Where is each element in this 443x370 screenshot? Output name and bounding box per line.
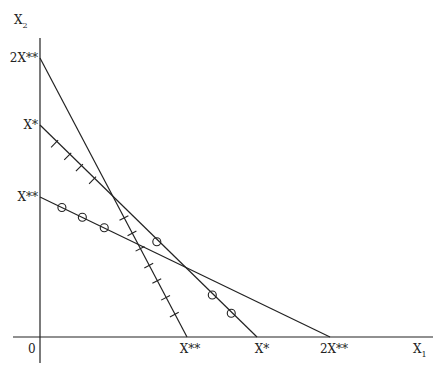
markers-group bbox=[51, 140, 235, 317]
y-tick-label-xs: X* bbox=[23, 118, 38, 132]
y-tick-label-2xss: 2X** bbox=[10, 51, 38, 65]
circle-marker-xs-line bbox=[227, 309, 235, 317]
line-xss-to-2xss bbox=[40, 197, 330, 337]
y-axis-label: X2 bbox=[14, 13, 28, 30]
circle-marker-xs-line bbox=[208, 291, 216, 299]
x-tick-label-xs: X* bbox=[255, 342, 270, 356]
tick-mark-xs-line bbox=[51, 140, 58, 147]
origin-label: 0 bbox=[28, 342, 36, 356]
x-axis-label: X1 bbox=[413, 342, 427, 359]
x-tick-label-2xss: 2X** bbox=[320, 342, 348, 356]
tick-mark-xs-line bbox=[76, 164, 83, 171]
tick-mark-xs-line bbox=[64, 153, 71, 160]
tick-mark-xs-line bbox=[89, 177, 96, 184]
line-xs-to-xs bbox=[40, 125, 257, 337]
y-tick-label-xss: X** bbox=[17, 190, 38, 204]
constraint-diagram: X2 X1 0 2X** X* X** X** X* 2X** bbox=[0, 0, 443, 370]
x-tick-label-xss: X** bbox=[180, 342, 201, 356]
